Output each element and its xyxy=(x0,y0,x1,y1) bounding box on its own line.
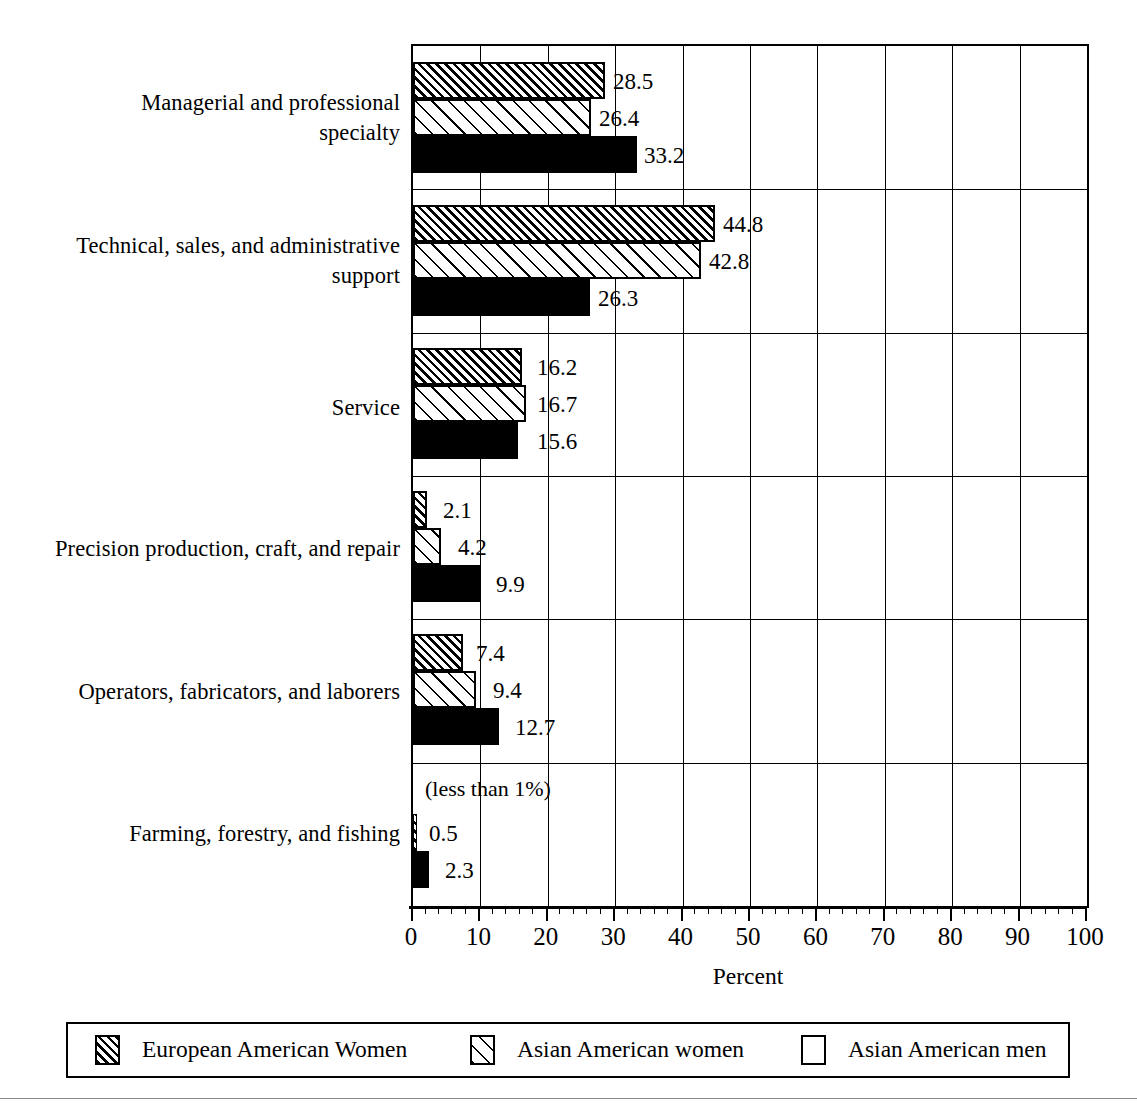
x-tick-major xyxy=(1018,906,1020,921)
x-tick-minor xyxy=(1004,906,1005,914)
bar-value-precision-asian-american-women: 4.2 xyxy=(458,536,487,559)
bar-value-operators-asian-american-men: 12.7 xyxy=(515,716,555,739)
bar-value-precision-european-american-women: 2.1 xyxy=(443,499,472,522)
x-tick-minor xyxy=(451,906,452,914)
bar-value-precision-asian-american-men: 9.9 xyxy=(496,573,525,596)
x-tick-minor xyxy=(667,906,668,914)
category-label-farming: Farming, forestry, and fishing xyxy=(10,819,400,849)
x-tick-minor xyxy=(721,906,722,914)
x-tick-minor xyxy=(937,906,938,914)
bar-value-service-european-american-women: 16.2 xyxy=(537,356,577,379)
plot-area: 28.5 26.4 33.2 44.8 42.8 26.3 16.2 16.7 … xyxy=(411,44,1089,908)
gridline-horizontal xyxy=(413,619,1087,620)
bar-farming-european-american-women xyxy=(413,814,417,851)
bar-value-farming-european-american-women: 0.5 xyxy=(429,822,458,845)
category-label-line: support xyxy=(10,261,400,291)
category-label-managerial: Managerial and professional specialty xyxy=(10,88,400,148)
x-tick-major xyxy=(748,906,750,921)
x-tick-label: 80 xyxy=(938,924,963,949)
bar-technical-european-american-women xyxy=(413,205,715,242)
bar-value-service-asian-american-men: 15.6 xyxy=(537,430,577,453)
bar-technical-asian-american-men xyxy=(413,279,590,316)
x-tick-major xyxy=(1085,906,1087,921)
x-tick-label: 40 xyxy=(668,924,693,949)
bar-value-managerial-european-american-women: 28.5 xyxy=(613,70,653,93)
x-tick-minor xyxy=(492,906,493,914)
legend-item-asian-american-men[interactable]: Asian American men xyxy=(801,1035,1046,1065)
x-tick-minor xyxy=(735,906,736,914)
x-tick-minor xyxy=(532,906,533,914)
x-tick-minor xyxy=(775,906,776,914)
x-tick-minor xyxy=(586,906,587,914)
gridline-horizontal xyxy=(413,763,1087,764)
x-tick-label: 60 xyxy=(803,924,828,949)
x-tick-minor xyxy=(829,906,830,914)
x-tick-label: 90 xyxy=(1005,924,1030,949)
x-tick-major xyxy=(681,906,683,921)
category-axis-labels: Managerial and professional specialty Te… xyxy=(10,44,400,904)
legend-swatch-solid-black-icon xyxy=(801,1035,826,1065)
x-tick-minor xyxy=(600,906,601,914)
category-label-line: Operators, fabricators, and laborers xyxy=(10,677,400,707)
bar-value-operators-european-american-women: 7.4 xyxy=(476,642,505,665)
x-tick-major xyxy=(411,906,413,921)
x-tick-minor xyxy=(896,906,897,914)
x-tick-minor xyxy=(923,906,924,914)
category-label-line: Service xyxy=(10,393,400,423)
x-tick-minor xyxy=(708,906,709,914)
legend-label: European American Women xyxy=(142,1038,407,1062)
bar-farming-asian-american-men xyxy=(413,851,429,888)
bar-value-managerial-asian-american-women: 26.4 xyxy=(599,107,639,130)
gridline-horizontal xyxy=(413,333,1087,334)
bar-precision-asian-american-men xyxy=(413,565,480,602)
category-label-operators: Operators, fabricators, and laborers xyxy=(10,677,400,707)
x-tick-label: 0 xyxy=(405,924,418,949)
x-tick-minor xyxy=(1058,906,1059,914)
x-tick-minor xyxy=(762,906,763,914)
x-tick-minor xyxy=(505,906,506,914)
x-tick-major xyxy=(613,906,615,921)
category-label-line: Managerial and professional xyxy=(10,88,400,118)
x-tick-minor xyxy=(964,906,965,914)
x-tick-minor xyxy=(1072,906,1073,914)
category-label-line: specialty xyxy=(10,118,400,148)
x-axis-title: Percent xyxy=(411,963,1085,990)
x-tick-label: 20 xyxy=(533,924,558,949)
x-axis: 0 10 20 30 40 50 60 70 80 90 100 xyxy=(411,906,1085,922)
x-tick-minor xyxy=(1045,906,1046,914)
bar-precision-european-american-women xyxy=(413,491,427,528)
annotation-less-than-one-percent: (less than 1%) xyxy=(425,778,551,800)
legend-item-asian-american-women[interactable]: Asian American women xyxy=(470,1035,744,1065)
x-tick-minor xyxy=(640,906,641,914)
bar-value-technical-asian-american-women: 42.8 xyxy=(709,250,749,273)
x-tick-label: 50 xyxy=(736,924,761,949)
bar-precision-asian-american-women xyxy=(413,528,441,565)
x-tick-major xyxy=(478,906,480,921)
category-label-service: Service xyxy=(10,393,400,423)
category-label-precision: Precision production, craft, and repair xyxy=(10,534,400,564)
legend-swatch-dense-hatch-icon xyxy=(95,1035,120,1065)
category-label-line: Farming, forestry, and fishing xyxy=(10,819,400,849)
x-tick-minor xyxy=(910,906,911,914)
category-label-line: Technical, sales, and administrative xyxy=(10,231,400,261)
category-label-line: Precision production, craft, and repair xyxy=(10,534,400,564)
x-tick-label: 100 xyxy=(1066,924,1104,949)
bar-operators-asian-american-men xyxy=(413,708,499,745)
x-tick-label: 70 xyxy=(870,924,895,949)
x-tick-major xyxy=(883,906,885,921)
x-tick-label: 30 xyxy=(601,924,626,949)
x-tick-major xyxy=(950,906,952,921)
bar-service-european-american-women xyxy=(413,348,522,385)
page-bottom-rule xyxy=(0,1098,1137,1099)
bar-value-operators-asian-american-women: 9.4 xyxy=(493,679,522,702)
x-tick-minor xyxy=(465,906,466,914)
x-tick-minor xyxy=(856,906,857,914)
x-tick-minor xyxy=(559,906,560,914)
legend-item-european-american-women[interactable]: European American Women xyxy=(95,1035,407,1065)
x-tick-minor xyxy=(977,906,978,914)
category-label-technical: Technical, sales, and administrative sup… xyxy=(10,231,400,291)
x-tick-minor xyxy=(519,906,520,914)
x-tick-label: 10 xyxy=(466,924,491,949)
bar-operators-european-american-women xyxy=(413,634,463,671)
x-tick-minor xyxy=(573,906,574,914)
